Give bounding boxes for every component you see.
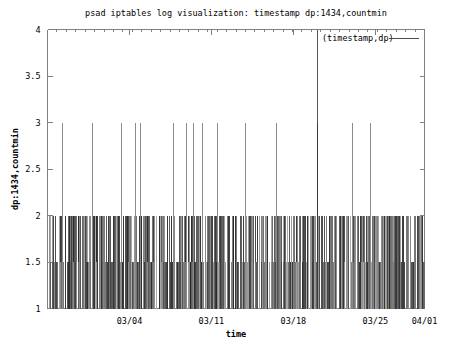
- y-tick-label: 3.5: [25, 71, 40, 81]
- chart-title: psad iptables log visualization: timesta…: [85, 8, 387, 18]
- legend-entry-label: (timestamp,dp): [322, 33, 394, 43]
- y-tick-label: 1.5: [25, 257, 40, 267]
- y-tick-label: 1: [35, 304, 40, 314]
- y-tick-label: 2.5: [25, 164, 40, 174]
- x-tick-label: 03/18: [281, 316, 307, 326]
- x-tick-label: 03/25: [363, 316, 389, 326]
- y-tick-label: 3: [35, 118, 40, 128]
- y-tick-label: 4: [35, 25, 40, 35]
- psad-iptables-log-chart: psad iptables log visualization: timesta…: [0, 0, 451, 345]
- x-tick-label: 03/04: [117, 316, 143, 326]
- y-axis-label: dp:1434,countmin: [10, 128, 20, 210]
- x-tick-label: 04/01: [412, 316, 438, 326]
- y-tick-label: 2: [35, 211, 40, 221]
- chart-container: psad iptables log visualization: timesta…: [0, 0, 451, 345]
- x-axis-label: time: [226, 329, 246, 339]
- x-tick-label: 03/11: [199, 316, 225, 326]
